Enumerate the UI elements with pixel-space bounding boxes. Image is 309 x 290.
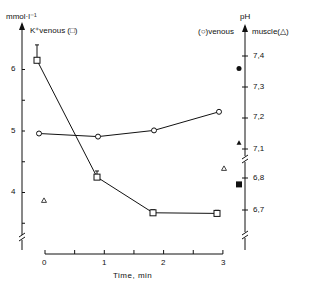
venous-ph-line [39, 112, 219, 137]
muscle-ph-marker-triangle [42, 198, 47, 203]
venous-ph-marker-circle [152, 128, 157, 133]
right-axis-unit-label: pH [240, 13, 250, 21]
k-venous-line [37, 60, 217, 213]
x-tick-0: 0 [42, 259, 46, 267]
x-tick-2: 2 [161, 259, 165, 267]
k-venous-marker-square [94, 174, 100, 180]
right-axis-break-lower [242, 231, 248, 239]
right-tick-6-7: 6,7 [253, 206, 264, 214]
venous-ph-marker-circle [37, 131, 42, 136]
left-tick-6: 6 [11, 65, 15, 73]
left-tick-5: 5 [11, 127, 15, 135]
left-tick-4: 4 [11, 188, 15, 196]
right-axis-break [242, 155, 248, 163]
right-tick-7-3: 7,3 [253, 83, 264, 91]
filled-circle-marker [237, 66, 242, 71]
muscle-ph-marker-triangle [222, 166, 227, 171]
x-tick-3: 3 [221, 259, 225, 267]
k-venous-marker-square [34, 57, 40, 63]
left-axis-unit-label: mmol·l⁻¹ [6, 13, 37, 21]
k-venous-marker-square [214, 210, 220, 216]
right-tick-7-2: 7,2 [253, 113, 264, 121]
right-axis-venous-label: (○)venous [198, 28, 234, 36]
right-tick-7-1: 7,1 [253, 145, 264, 153]
right-axis-muscle-label: muscle(△) [252, 28, 289, 36]
left-axis-arrow [19, 22, 25, 30]
x-axis-label: Time, min [113, 272, 152, 280]
right-axis-arrow [242, 24, 248, 32]
venous-ph-marker-circle [217, 109, 222, 114]
filled-square-marker [236, 181, 242, 187]
filled-triangle-marker [237, 140, 242, 145]
right-tick-6-8: 6,8 [253, 174, 264, 182]
venous-ph-marker-circle [96, 134, 101, 139]
left-axis-series-label: K⁺venous (□) [30, 27, 78, 35]
x-tick-1: 1 [102, 259, 106, 267]
right-tick-7-4: 7,4 [253, 52, 264, 60]
k-venous-marker-square [150, 210, 156, 216]
